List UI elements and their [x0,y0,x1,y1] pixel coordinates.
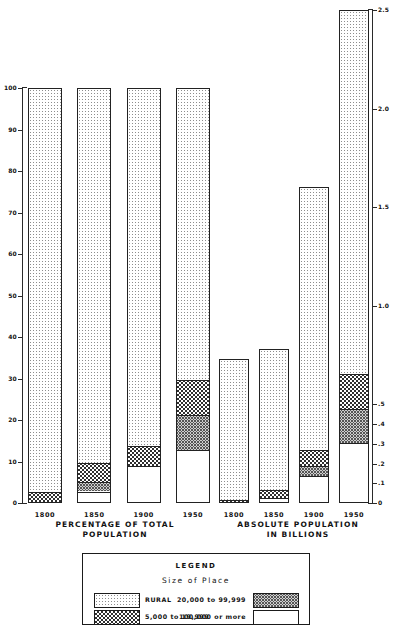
bar-segment [340,11,368,374]
bar-segment [300,450,328,466]
bar-absolute-1900 [299,187,329,503]
chart-page: 01020304050607080901001800185019001950PE… [0,0,393,635]
y-axis-tick-label-right: 1.0 [378,303,389,309]
x-axis-label-absolute: 1950 [332,512,376,519]
y-axis-tick-right [372,109,377,110]
legend-swatch-check [94,610,140,625]
x-axis-label-absolute: 1800 [212,512,256,519]
y-axis-tick-label-left: 70 [2,210,17,216]
y-axis-tick-right [372,424,377,425]
x-axis-label-percentage: 1900 [121,512,167,519]
y-axis-tick-label-left: 80 [2,168,17,174]
y-axis-tick-right [372,483,377,484]
panel-title-absolute-line2: IN BILLIONS [218,530,378,540]
y-axis-tick-right [372,464,377,465]
bar-segment [78,482,110,491]
legend-swatch-hatch [253,593,299,608]
x-axis-label-percentage: 1850 [71,512,117,519]
bar-segment [78,463,110,483]
panel-title-percentage: PERCENTAGE OF TOTAL [10,520,220,530]
y-axis-tick-left [18,130,23,131]
bar-percentage-1800 [28,88,62,503]
y-axis-tick-label-left: 90 [2,127,17,133]
y-axis-tick-label-right: .4 [378,421,385,427]
bar-segment [29,492,61,503]
bar-segment [128,89,160,446]
bar-segment [260,490,288,498]
bar-segment [177,415,209,450]
x-axis-label-percentage: 1800 [22,512,68,519]
y-axis-tick-left [18,171,23,172]
y-axis-tick-left [18,296,23,297]
legend-label: 20,000 to 99,999 [177,597,246,603]
bar-absolute-1850 [259,349,289,503]
bar-segment [78,89,110,463]
y-axis-tick-label-left: 10 [2,459,17,465]
y-axis-tick-label-right: 0 [378,500,382,506]
y-axis-tick-left [18,503,23,504]
y-axis-tick-right [372,444,377,445]
bar-segment [177,89,209,380]
legend-box: LEGENDSize of PlaceRURAL20,000 to 99,999… [82,553,310,625]
bar-segment [300,466,328,476]
y-axis-tick-label-right: .3 [378,441,385,447]
y-axis-tick-label-right: .2 [378,461,385,467]
legend-title: LEGEND [83,563,309,570]
legend-label: 100,000 or more [179,614,246,620]
bar-segment [300,476,328,503]
legend-swatch-rural [94,593,140,608]
bar-segment [128,466,160,503]
legend-subtitle: Size of Place [83,577,309,585]
bar-segment [340,443,368,503]
y-axis-tick-left [18,88,23,89]
y-axis-tick-label-left: 40 [2,334,17,340]
bar-segment [78,492,110,503]
bar-segment [220,360,248,500]
y-axis-tick-right [372,207,377,208]
bar-percentage-1950 [176,88,210,503]
bar-segment [300,188,328,450]
bar-segment [177,380,209,415]
panel-title-absolute: ABSOLUTE POPULATION [218,520,378,530]
y-axis-tick-right [372,10,377,11]
legend-label: RURAL [145,597,171,603]
y-axis-tick-left [18,462,23,463]
y-axis-tick-left [18,420,23,421]
y-axis-tick-label-left: 20 [2,417,17,423]
bar-percentage-1900 [127,88,161,503]
y-axis-tick-left [18,213,23,214]
y-axis-tick-label-left: 30 [2,376,17,382]
y-axis-tick-label-right: 2.5 [378,7,389,13]
y-axis-tick-label-right: 1.5 [378,204,389,210]
x-axis-label-absolute: 1850 [252,512,296,519]
y-axis-tick-right [372,404,377,405]
bar-segment [177,450,209,503]
bar-percentage-1850 [77,88,111,503]
y-axis-tick-label-left: 50 [2,293,17,299]
y-axis-tick-label-right: .1 [378,480,385,486]
bar-absolute-1950 [339,10,369,503]
bar-segment [128,446,160,466]
bar-segment [29,89,61,492]
x-axis-label-percentage: 1950 [170,512,216,519]
y-axis-tick-label-right: 2.0 [378,106,389,112]
y-axis-tick-label-left: 0 [2,500,17,506]
y-axis-tick-label-left: 100 [2,85,17,91]
y-axis-tick-left [18,379,23,380]
y-axis-tick-right [372,503,377,504]
bar-segment [340,374,368,409]
bar-segment [340,409,368,443]
y-axis-tick-label-left: 60 [2,251,17,257]
y-axis-tick-left [18,337,23,338]
legend-swatch-white [253,610,299,625]
panel-title-percentage-line2: POPULATION [10,530,220,540]
y-axis-tick-right [372,306,377,307]
y-axis-tick-left [18,254,23,255]
x-axis-label-absolute: 1900 [292,512,336,519]
bar-segment [260,350,288,490]
bar-absolute-1800 [219,359,249,503]
y-axis-tick-label-right: .5 [378,401,385,407]
